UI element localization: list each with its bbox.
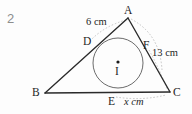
measurement-label-ec: x cm bbox=[124, 97, 144, 108]
triangle-side-bc bbox=[45, 92, 170, 93]
measurement-label-fc: 13 cm bbox=[152, 48, 178, 59]
tangent-label-e: E bbox=[108, 96, 115, 108]
measurement-label-ad: 6 cm bbox=[86, 17, 107, 28]
incenter-dot bbox=[116, 60, 119, 63]
figure-page: 2 A B C D E F I 6 cm 13 cm x cm bbox=[0, 0, 192, 114]
incenter-label: I bbox=[115, 66, 119, 78]
tangent-label-f: F bbox=[143, 40, 149, 52]
vertex-label-a: A bbox=[124, 5, 132, 17]
vertex-label-b: B bbox=[32, 87, 40, 99]
triangle-side-ab bbox=[45, 18, 128, 93]
vertex-label-c: C bbox=[173, 87, 181, 99]
tangent-label-d: D bbox=[83, 36, 91, 48]
